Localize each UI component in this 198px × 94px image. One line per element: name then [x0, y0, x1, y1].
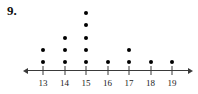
dot-plot-figure: 9. 13141516171819 — [0, 0, 198, 94]
data-dot — [84, 23, 88, 27]
axis-tick — [86, 66, 87, 75]
axis-tick-label: 15 — [82, 78, 91, 88]
data-dot — [84, 11, 88, 15]
axis-tick — [107, 66, 108, 75]
axis-tick-label: 17 — [125, 78, 134, 88]
data-dot — [84, 60, 88, 64]
axis-tick-label: 18 — [146, 78, 155, 88]
data-dot — [84, 48, 88, 52]
axis-right-arrow-icon — [188, 68, 193, 74]
axis-tick — [172, 66, 173, 75]
axis-tick-label: 13 — [39, 78, 48, 88]
data-dot — [63, 60, 67, 64]
axis-tick-label: 16 — [103, 78, 112, 88]
axis-tick — [64, 66, 65, 75]
axis-tick-label: 14 — [60, 78, 69, 88]
data-dot — [63, 48, 67, 52]
data-dot — [127, 48, 131, 52]
axis-tick — [150, 66, 151, 75]
axis-left-arrow-icon — [23, 68, 28, 74]
data-dot — [170, 60, 174, 64]
data-dot — [149, 60, 153, 64]
dot-plot-canvas: 13141516171819 — [0, 0, 198, 94]
axis-tick-label: 19 — [168, 78, 177, 88]
data-dot — [106, 60, 110, 64]
data-dot — [84, 36, 88, 40]
data-dot — [41, 60, 45, 64]
data-dot — [127, 60, 131, 64]
axis-tick — [129, 66, 130, 75]
axis-tick — [43, 66, 44, 75]
data-dot — [63, 36, 67, 40]
data-dot — [41, 48, 45, 52]
number-line-axis — [28, 70, 188, 71]
